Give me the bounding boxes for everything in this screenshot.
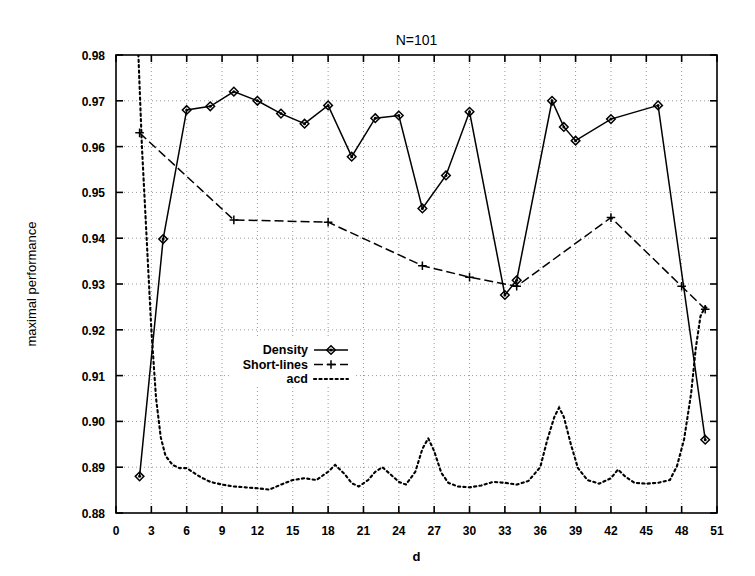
- series-line: [140, 133, 706, 309]
- data-point-center: [162, 238, 165, 241]
- x-axis-tick-label: 3: [148, 524, 155, 538]
- y-axis-tick-label: 0.97: [82, 95, 106, 109]
- data-point-center: [468, 110, 471, 113]
- chart-title: N=101: [396, 32, 438, 48]
- data-point-center: [185, 108, 188, 111]
- y-axis-tick-label: 0.89: [82, 461, 106, 475]
- x-axis-tick-label: 24: [392, 524, 406, 538]
- y-axis-label: maximal performance: [24, 222, 39, 347]
- chart-canvas: 036912151821242730333639424548510.880.89…: [0, 0, 755, 576]
- legend-label-0: Density: [263, 343, 308, 357]
- legend-marker-center-0: [330, 349, 333, 352]
- x-axis-tick-label: 42: [604, 524, 618, 538]
- data-point-marker: [418, 261, 427, 270]
- data-point-center: [444, 174, 447, 177]
- y-axis-tick-label: 0.94: [82, 232, 106, 246]
- data-point-center: [209, 105, 212, 108]
- data-point-center: [515, 279, 518, 282]
- legend-label-1: Short-lines: [243, 358, 308, 372]
- data-point-center: [657, 104, 660, 107]
- data-point-center: [232, 90, 235, 93]
- series-density: [135, 87, 709, 480]
- data-point-center: [421, 207, 424, 210]
- series-short-lines: [135, 129, 709, 314]
- y-axis-tick-label: 0.90: [82, 415, 106, 429]
- x-axis-tick-label: 18: [321, 524, 335, 538]
- legend-label-2: acd: [286, 372, 308, 386]
- x-axis-tick-label: 48: [675, 524, 689, 538]
- data-point-center: [374, 117, 377, 120]
- series-acd: [135, 0, 709, 490]
- x-axis-tick-label: 15: [286, 524, 300, 538]
- data-point-center: [327, 104, 330, 107]
- x-axis-tick-label: 12: [251, 524, 265, 538]
- data-point-marker: [465, 273, 474, 282]
- series-line: [135, 0, 709, 490]
- data-point-center: [303, 122, 306, 125]
- x-axis-tick-label: 21: [357, 524, 371, 538]
- y-axis-tick-label: 0.98: [82, 49, 106, 63]
- chart-figure: 036912151821242730333639424548510.880.89…: [0, 0, 755, 576]
- data-point-center: [503, 293, 506, 296]
- data-point-center: [138, 475, 141, 478]
- x-axis-tick-label: 39: [569, 524, 583, 538]
- data-point-center: [397, 114, 400, 117]
- y-axis-tick-label: 0.92: [82, 324, 106, 338]
- x-axis-tick-label: 51: [710, 524, 724, 538]
- data-point-center: [551, 99, 554, 102]
- data-point-center: [256, 99, 259, 102]
- data-point-center: [279, 112, 282, 115]
- x-axis-tick-label: 45: [640, 524, 654, 538]
- data-point-center: [574, 139, 577, 142]
- x-axis-tick-label: 30: [463, 524, 477, 538]
- x-axis-tick-label: 36: [534, 524, 548, 538]
- x-axis-tick-label: 33: [498, 524, 512, 538]
- y-axis-tick-label: 0.95: [82, 186, 106, 200]
- y-axis-tick-label: 0.91: [82, 370, 106, 384]
- data-point-center: [704, 438, 707, 441]
- x-axis-label: d: [413, 549, 421, 564]
- data-point-center: [609, 118, 612, 121]
- chart-legend: DensityShort-linesacd: [232, 338, 354, 386]
- x-axis-tick-label: 9: [219, 524, 226, 538]
- x-axis-tick-label: 0: [113, 524, 120, 538]
- x-axis-tick-label: 6: [183, 524, 190, 538]
- x-axis-tick-label: 27: [427, 524, 441, 538]
- data-point-center: [562, 125, 565, 128]
- data-point-marker: [324, 218, 333, 227]
- y-axis-tick-label: 0.88: [82, 507, 106, 521]
- data-point-center: [350, 155, 353, 158]
- y-axis-tick-label: 0.96: [82, 141, 106, 155]
- y-axis-tick-label: 0.93: [82, 278, 106, 292]
